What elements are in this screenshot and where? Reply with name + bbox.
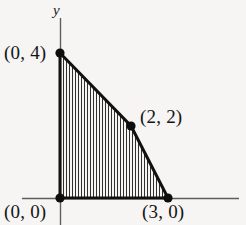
vertex-label-0-0: (0, 0) xyxy=(4,202,46,221)
vertex-dot-0-0 xyxy=(55,193,64,202)
y-axis-label: y xyxy=(53,3,60,18)
vertex-label-2-2: (2, 2) xyxy=(140,107,182,126)
vertex-label-3-0: (3, 0) xyxy=(142,202,184,221)
coordinate-plot xyxy=(0,0,246,225)
figure-canvas: y (0, 4) (0, 0) (2, 2) (3, 0) xyxy=(0,0,246,225)
vertex-label-0-4: (0, 4) xyxy=(4,43,46,62)
vertex-dot-0-4 xyxy=(55,48,64,57)
vertex-dot-2-2 xyxy=(126,121,135,130)
